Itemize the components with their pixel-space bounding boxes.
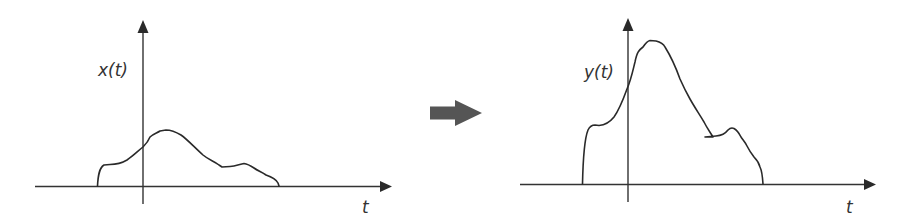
- input-signal-label: x(t): [97, 60, 128, 80]
- transform-arrow: [430, 100, 482, 126]
- input-signal-panel: x(t) t: [35, 20, 392, 217]
- output-t-axis-arrowhead: [864, 179, 876, 190]
- output-signal-panel: y(t) t: [520, 18, 876, 217]
- output-value-axis-arrowhead: [623, 18, 634, 31]
- right-arrow-icon: [430, 100, 482, 126]
- output-t-label: t: [846, 197, 854, 217]
- input-value-axis-arrowhead: [138, 20, 149, 33]
- input-t-axis-arrowhead: [380, 181, 392, 192]
- signal-diagram: x(t) t y(t) t: [0, 0, 898, 221]
- input-signal-curve: [98, 130, 280, 186]
- output-signal-label: y(t): [583, 62, 614, 82]
- input-t-label: t: [362, 197, 370, 217]
